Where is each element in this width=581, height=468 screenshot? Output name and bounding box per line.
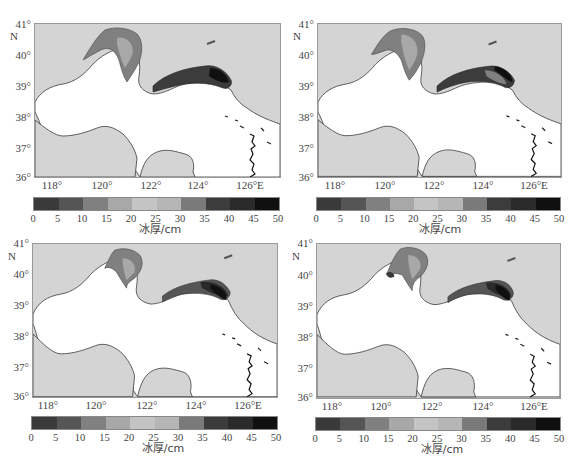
- cbar-tick: 20: [407, 433, 418, 444]
- colorbar-seg: [57, 417, 82, 429]
- map-panel-c: 41° N 40° 39° 38° 37° 36° 118° 120° 122°…: [0, 234, 290, 468]
- x-tick-124: 124°: [473, 401, 494, 412]
- y-tick-41: 41°: [0, 238, 29, 249]
- cbar-tick: 35: [481, 433, 492, 444]
- y-tick-40: 40°: [283, 270, 313, 281]
- y-tick-41: 41°: [1, 19, 31, 30]
- colorbar-seg: [179, 417, 204, 429]
- y-tick-38: 38°: [283, 332, 313, 343]
- colorbar-seg: [438, 418, 462, 430]
- x-tick-122: 122°: [141, 180, 162, 191]
- cbar-tick: 5: [53, 432, 58, 443]
- map-graphic: [318, 24, 561, 177]
- colorbar-seg: [414, 198, 438, 210]
- y-tick-38: 38°: [284, 112, 314, 123]
- colorbar-seg: [438, 198, 462, 210]
- x-tick-120: 120°: [375, 180, 396, 191]
- y-unit-n: N: [283, 31, 311, 42]
- colorbar-seg: [536, 418, 560, 430]
- colorbar: [315, 417, 561, 431]
- colorbar-seg: [511, 198, 535, 210]
- cbar-tick: 35: [481, 213, 492, 224]
- colorbar-seg: [181, 198, 206, 210]
- cbar-tick: 45: [529, 213, 540, 224]
- y-tick-36: 36°: [283, 392, 313, 403]
- cbar-tick: 45: [246, 432, 257, 443]
- cbar-tick: 15: [383, 433, 394, 444]
- colorbar-seg: [81, 417, 106, 429]
- map-panel-b: 41° N 40° 39° 38° 37° 36° 118° 120° 122°…: [290, 0, 580, 234]
- colorbar-seg: [106, 417, 131, 429]
- map-frame: [316, 243, 561, 399]
- colorbar-seg: [228, 417, 253, 429]
- cbar-tick: 0: [312, 433, 317, 444]
- x-tick-118: 118°: [325, 180, 346, 191]
- colorbar-label: 冰厚/cm: [421, 444, 463, 456]
- cbar-tick: 40: [505, 213, 516, 224]
- colorbar-seg: [365, 418, 389, 430]
- cbar-tick: 40: [224, 213, 235, 224]
- colorbar-seg: [536, 198, 560, 210]
- cbar-tick: 50: [554, 433, 565, 444]
- cbar-tick: 45: [529, 433, 540, 444]
- map-graphic: [33, 244, 277, 397]
- x-tick-122: 122°: [137, 400, 158, 411]
- colorbar-seg: [255, 198, 280, 210]
- map-frame: [32, 243, 278, 398]
- cbar-tick: 10: [359, 213, 370, 224]
- y-tick-37: 37°: [1, 143, 31, 154]
- colorbar-seg: [34, 198, 59, 210]
- colorbar-seg: [487, 418, 511, 430]
- y-tick-37: 37°: [283, 363, 313, 374]
- map-frame: [317, 23, 562, 178]
- colorbar-seg: [316, 418, 340, 430]
- colorbar-seg: [462, 418, 486, 430]
- colorbar-seg: [414, 418, 438, 430]
- cbar-tick: 0: [313, 213, 318, 224]
- y-tick-36: 36°: [0, 391, 29, 402]
- cbar-tick: 0: [28, 432, 33, 443]
- cbar-tick: 35: [197, 432, 208, 443]
- map-panel-d: 41° N 40° 39° 38° 37° 36° 118° 120° 122°…: [290, 234, 580, 468]
- y-tick-39: 39°: [1, 81, 31, 92]
- y-tick-41: 41°: [284, 19, 314, 30]
- colorbar-seg: [230, 198, 255, 210]
- cbar-tick: 35: [199, 213, 210, 224]
- colorbar-seg: [341, 198, 365, 210]
- map-panel-a: 41° N 40° 39° 38° 37° 36° 118° 120° 122°…: [0, 0, 290, 234]
- y-tick-40: 40°: [284, 50, 314, 61]
- y-tick-37: 37°: [284, 143, 314, 154]
- y-tick-41: 41°: [283, 238, 313, 249]
- cbar-tick: 15: [99, 432, 110, 443]
- x-tick-126: 126°E: [236, 180, 264, 191]
- cbar-tick: 40: [505, 433, 516, 444]
- cbar-tick: 5: [338, 213, 343, 224]
- cbar-tick: 40: [222, 432, 233, 443]
- x-tick-120: 120°: [371, 401, 392, 412]
- colorbar-seg: [204, 417, 229, 429]
- y-unit-n: N: [0, 31, 28, 42]
- y-tick-39: 39°: [284, 81, 314, 92]
- y-tick-39: 39°: [0, 300, 29, 311]
- colorbar-seg: [83, 198, 108, 210]
- colorbar-seg: [390, 198, 414, 210]
- x-tick-118: 118°: [38, 400, 59, 411]
- map-graphic: [35, 24, 280, 177]
- cbar-tick: 20: [124, 432, 135, 443]
- colorbar-seg: [317, 198, 341, 210]
- x-tick-118: 118°: [42, 180, 63, 191]
- colorbar-seg: [366, 198, 390, 210]
- x-tick-124: 124°: [186, 400, 207, 411]
- x-tick-126: 126°E: [520, 180, 548, 191]
- colorbar-seg: [59, 198, 84, 210]
- y-tick-39: 39°: [283, 301, 313, 312]
- x-tick-124: 124°: [188, 180, 209, 191]
- colorbar: [316, 197, 561, 211]
- colorbar-seg: [463, 198, 487, 210]
- colorbar: [31, 416, 278, 430]
- colorbar-seg: [130, 417, 155, 429]
- cbar-tick: 10: [359, 433, 370, 444]
- colorbar: [33, 197, 280, 211]
- y-unit-n: N: [282, 251, 310, 262]
- cbar-tick: 5: [337, 433, 342, 444]
